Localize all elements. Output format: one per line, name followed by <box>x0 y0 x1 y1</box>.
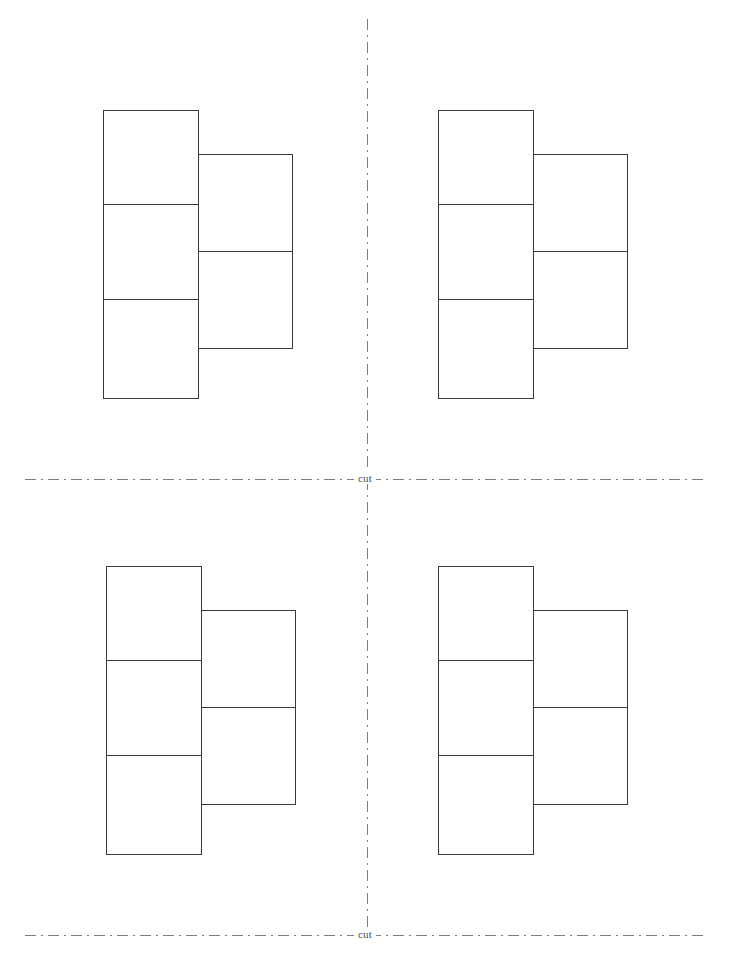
net-bottom-left-column-right-cell-2 <box>201 708 296 805</box>
net-top-left-column-left-cell-1 <box>103 110 199 205</box>
net-bottom-left-column-left-cell-3 <box>106 756 202 855</box>
cut-label-bottom: cut <box>354 928 376 940</box>
worksheet-page: cut cut <box>0 0 730 970</box>
net-bottom-right-column-right-cell-2 <box>533 708 628 805</box>
net-bottom-right-column-left-cell-3 <box>438 756 534 855</box>
net-top-left-column-right <box>198 154 293 349</box>
net-top-right-column-right-cell-1 <box>533 154 628 252</box>
net-bottom-right <box>438 566 628 855</box>
net-top-left-column-right-cell-2 <box>198 252 293 349</box>
net-top-right-column-left <box>438 110 534 399</box>
net-bottom-left-column-left-cell-2 <box>106 661 202 756</box>
net-bottom-left-column-left-cell-1 <box>106 566 202 661</box>
net-bottom-right-column-left-cell-1 <box>438 566 534 661</box>
net-bottom-right-column-left-cell-2 <box>438 661 534 756</box>
net-bottom-right-column-right <box>533 610 628 805</box>
net-bottom-left-column-right-cell-1 <box>201 610 296 708</box>
net-bottom-left <box>106 566 296 855</box>
net-top-right <box>438 110 628 399</box>
net-bottom-right-column-left <box>438 566 534 855</box>
net-bottom-left-column-right <box>201 610 296 805</box>
net-top-right-column-left-cell-3 <box>438 300 534 399</box>
net-top-left-column-right-cell-1 <box>198 154 293 252</box>
net-top-left-column-left-cell-3 <box>103 300 199 399</box>
net-top-right-column-left-cell-2 <box>438 205 534 300</box>
net-top-left-column-left-cell-2 <box>103 205 199 300</box>
net-top-left <box>103 110 293 399</box>
net-top-right-column-right-cell-2 <box>533 252 628 349</box>
net-top-right-column-right <box>533 154 628 349</box>
net-bottom-left-column-left <box>106 566 202 855</box>
net-top-left-column-left <box>103 110 199 399</box>
net-top-right-column-left-cell-1 <box>438 110 534 205</box>
net-bottom-right-column-right-cell-1 <box>533 610 628 708</box>
cut-label-middle: cut <box>354 472 376 484</box>
